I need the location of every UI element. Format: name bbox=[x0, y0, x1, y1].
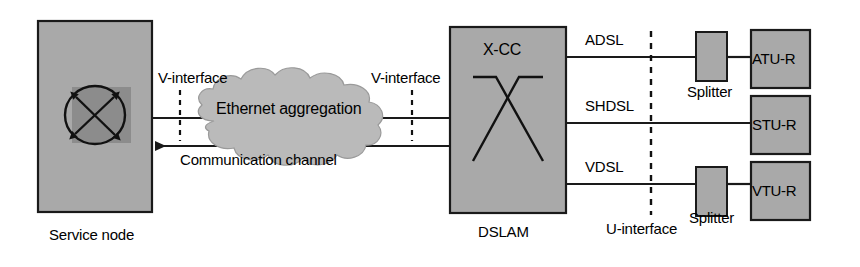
service-node-inner-square bbox=[72, 87, 131, 143]
splitter-bottom-label: Splitter bbox=[689, 210, 734, 226]
stu-r-label: STU-R bbox=[752, 117, 796, 133]
dslam-label: DSLAM bbox=[478, 224, 529, 240]
communication-channel-label: Communication channel bbox=[180, 152, 337, 168]
shdsl-line-label: SHDSL bbox=[585, 98, 634, 114]
v-interface-left-label: V-interface bbox=[158, 70, 228, 86]
v-interface-right-label: V-interface bbox=[371, 70, 441, 86]
ethernet-aggregation-label: Ethernet aggregation bbox=[216, 101, 361, 117]
adsl-line-label: ADSL bbox=[585, 32, 623, 48]
vtu-r-label: VTU-R bbox=[752, 183, 796, 199]
vdsl-line-label: VDSL bbox=[585, 159, 623, 175]
splitter-top-box bbox=[696, 32, 727, 81]
atu-r-label: ATU-R bbox=[752, 51, 795, 67]
x-cc-label: X-CC bbox=[483, 42, 521, 58]
u-interface-label: U-interface bbox=[606, 221, 677, 237]
service-node-label: Service node bbox=[49, 227, 134, 243]
service-node-box bbox=[38, 21, 152, 212]
network-diagram: Service node V-interface V-interface Eth… bbox=[0, 0, 860, 267]
splitter-top-label: Splitter bbox=[687, 84, 732, 100]
